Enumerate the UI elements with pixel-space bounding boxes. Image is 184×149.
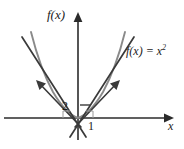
y-axis-label: f(x): [47, 8, 65, 21]
function-equation-exponent: 2: [162, 43, 166, 52]
x-tick-label-1: 1: [88, 120, 94, 132]
normal-arrow-left: [36, 80, 81, 127]
math-figure: f(x) x f(x) = x2 2 1: [0, 0, 184, 149]
y-tick-label-2: 2: [62, 100, 68, 112]
function-equation-base: f(x) = x: [126, 44, 162, 58]
normal-arrow-right: [75, 80, 120, 127]
function-equation-label: f(x) = x2: [126, 44, 166, 57]
x-axis-label: x: [168, 120, 173, 132]
